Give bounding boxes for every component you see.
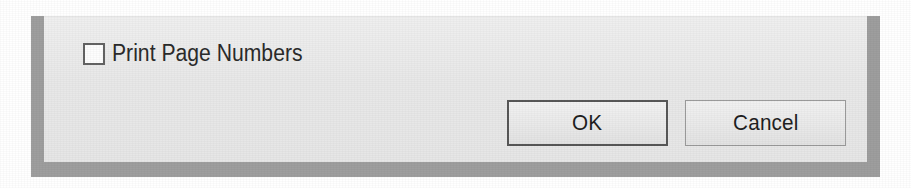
option-row-print-page-numbers[interactable]: Print Page Numbers: [83, 42, 319, 65]
ok-button[interactable]: OK: [507, 100, 668, 146]
print-page-numbers-label: Print Page Numbers: [112, 42, 303, 65]
cancel-button[interactable]: Cancel: [685, 100, 846, 146]
dialog-frame: Print Page Numbers OK Cancel: [31, 16, 880, 177]
cancel-button-label: Cancel: [733, 110, 799, 136]
ok-button-label: OK: [572, 110, 602, 136]
print-page-numbers-checkbox[interactable]: [83, 43, 105, 65]
dialog-button-bar: OK Cancel: [44, 100, 867, 150]
scanned-page: Print Page Numbers OK Cancel: [0, 0, 911, 188]
dialog-panel: Print Page Numbers OK Cancel: [44, 16, 867, 162]
